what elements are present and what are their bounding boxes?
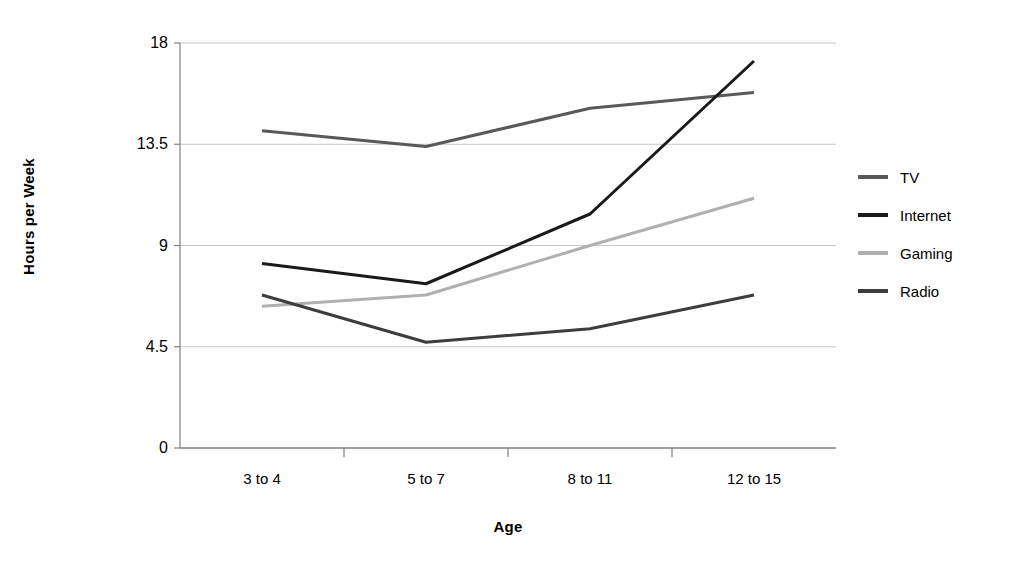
y-axis-title: Hours per Week — [20, 127, 37, 307]
legend-label: Radio — [900, 283, 939, 300]
series-line-internet — [262, 61, 754, 284]
legend-swatch-icon — [858, 213, 888, 217]
chart-legend: TVInternetGamingRadio — [858, 158, 1008, 310]
legend-item-radio[interactable]: Radio — [858, 272, 1008, 310]
x-axis-tick-label: 12 to 15 — [727, 470, 781, 487]
y-axis-tick-label: 9 — [98, 238, 168, 254]
y-axis-tick-label: 0 — [98, 440, 168, 456]
legend-label: TV — [900, 169, 919, 186]
legend-swatch-icon — [858, 175, 888, 179]
legend-item-internet[interactable]: Internet — [858, 196, 1008, 234]
x-axis-title: Age — [180, 518, 836, 535]
series-line-gaming — [262, 198, 754, 306]
series-line-tv — [262, 93, 754, 147]
legend-swatch-icon — [858, 289, 888, 293]
legend-item-tv[interactable]: TV — [858, 158, 1008, 196]
y-axis-tick-label: 4.5 — [98, 339, 168, 355]
legend-label: Internet — [900, 207, 951, 224]
legend-label: Gaming — [900, 245, 953, 262]
y-axis-tick-label: 18 — [98, 35, 168, 51]
x-axis-tick-label: 3 to 4 — [243, 470, 281, 487]
x-axis-tick-label: 5 to 7 — [407, 470, 445, 487]
y-axis-tick-labels: 04.5913.518 — [90, 0, 168, 500]
legend-item-gaming[interactable]: Gaming — [858, 234, 1008, 272]
legend-swatch-icon — [858, 251, 888, 255]
x-axis-tick-label: 8 to 11 — [568, 470, 613, 487]
line-chart-figure: Hours per Week 04.5913.518 Age TVInterne… — [0, 0, 1011, 565]
y-axis-tick-label: 13.5 — [98, 136, 168, 152]
